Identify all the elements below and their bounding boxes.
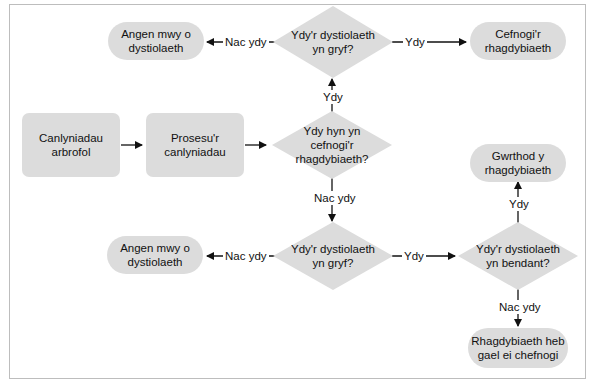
node-label: Canlyniadau arbrofol (39, 131, 103, 159)
terminal-support-hypothesis: Cefnogi'r rhagdybiaeth (470, 22, 566, 60)
node-label: Angen mwy o dystiolaeth (120, 241, 190, 269)
edge-label-strong-top-yes: Ydy (403, 35, 427, 49)
node-label: Prosesu'r canlyniadau (164, 131, 225, 159)
edge-label-strong-bottom-yes: Ydy (402, 249, 426, 263)
node-process-results: Prosesu'r canlyniadau (146, 113, 244, 177)
terminal-unsupported-hypothesis: Rhagdybiaeth heb gael ei chefnogi (468, 328, 568, 368)
edge-label-definite-no: Nac ydy (497, 300, 543, 314)
node-label: Cefnogi'r rhagdybiaeth (485, 27, 552, 55)
node-label: Ydy'r dystiolaeth yn gryf? (291, 28, 375, 56)
decision-supports-hypothesis: Ydy hyn yn cefnogi'r rhagdybiaeth? (272, 111, 392, 179)
decision-evidence-strong-bottom: Ydy'r dystiolaeth yn gryf? (273, 222, 393, 290)
edge-label-definite-yes: Ydy (507, 197, 531, 211)
decision-evidence-strong-top: Ydy'r dystiolaeth yn gryf? (273, 6, 393, 78)
node-label: Ydy'r dystiolaeth yn bendant? (476, 242, 560, 270)
node-label: Gwrthod y rhagdybiaeth (485, 149, 552, 177)
decision-evidence-definite: Ydy'r dystiolaeth yn bendant? (458, 222, 578, 290)
edge-label-support-yes: Ydy (321, 90, 345, 104)
terminal-more-evidence-top: Angen mwy o dystiolaeth (108, 22, 204, 60)
node-label: Ydy'r dystiolaeth yn gryf? (291, 242, 375, 270)
node-label: Angen mwy o dystiolaeth (121, 27, 191, 55)
node-label: Ydy hyn yn cefnogi'r rhagdybiaeth? (296, 124, 369, 166)
node-label: Rhagdybiaeth heb gael ei chefnogi (471, 334, 564, 362)
edge-label-support-no: Nac ydy (312, 191, 358, 205)
edge-label-strong-bottom-no: Nac ydy (223, 249, 269, 263)
terminal-more-evidence-bottom: Angen mwy o dystiolaeth (107, 236, 203, 274)
edge-label-strong-top-no: Nac ydy (223, 35, 269, 49)
node-experimental-results: Canlyniadau arbrofol (22, 113, 120, 177)
terminal-reject-hypothesis: Gwrthod y rhagdybiaeth (470, 144, 566, 182)
